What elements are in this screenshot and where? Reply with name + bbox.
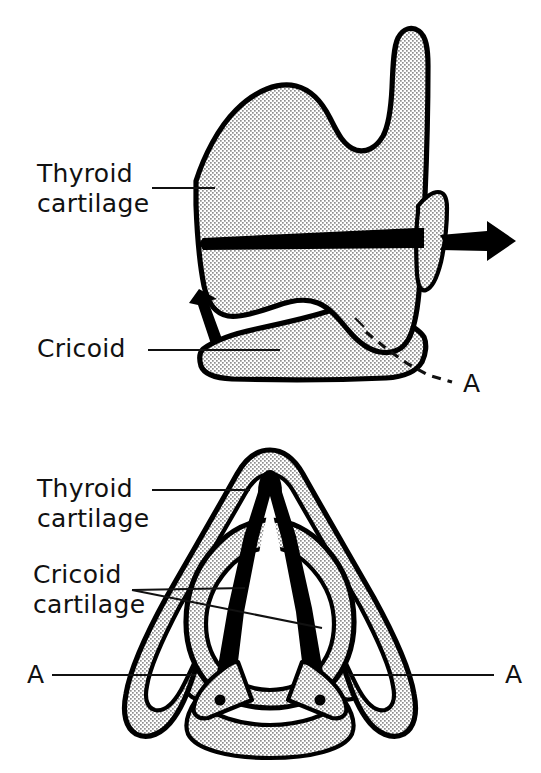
larynx-diagram-svg: A Thyroid cartilage Cricoid [0, 0, 541, 773]
label-cricoid-superior-line2: cartilage [33, 590, 145, 619]
thyroid-cartilage-lateral [196, 28, 428, 352]
arytenoid-left-dot [215, 695, 226, 706]
panel-superior-view: Thyroid cartilage Cricoid cartilage A A [27, 450, 522, 758]
label-thyroid-lateral-line1: Thyroid [36, 159, 133, 188]
label-cricoid-superior-line1: Cricoid [33, 560, 122, 589]
label-thyroid-superior-line2: cartilage [37, 504, 149, 533]
label-thyroid-superior-line1: Thyroid [36, 474, 133, 503]
section-marker-a-left: A [27, 660, 44, 689]
panel-lateral-view: A Thyroid cartilage Cricoid [36, 28, 516, 398]
arytenoid-right-dot [315, 695, 326, 706]
section-marker-a-lateral: A [463, 369, 480, 398]
label-cricoid-lateral: Cricoid [37, 334, 126, 363]
traction-arrow-right [440, 221, 516, 261]
anatomical-figure: A Thyroid cartilage Cricoid [0, 0, 541, 773]
label-thyroid-lateral-line2: cartilage [37, 189, 149, 218]
section-marker-a-right: A [505, 660, 522, 689]
